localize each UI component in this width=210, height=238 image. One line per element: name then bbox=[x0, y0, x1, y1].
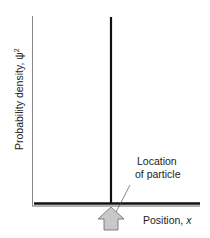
annotation-leader-line bbox=[115, 185, 130, 214]
x-axis-label: Position, x bbox=[143, 214, 192, 226]
annotation-of-particle: of particle bbox=[135, 168, 181, 180]
annotation-location: Location bbox=[137, 155, 177, 167]
y-axis-label: Probability density, ψ2 bbox=[13, 48, 25, 150]
probability-density-diagram: Probability density, ψ2 Location of part… bbox=[0, 0, 210, 238]
up-arrow-icon bbox=[98, 207, 124, 230]
